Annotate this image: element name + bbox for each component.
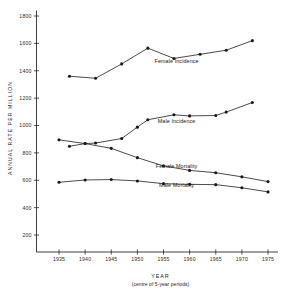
data-point [136,156,139,159]
data-point [266,180,269,183]
data-point [57,181,60,184]
data-point [225,49,228,52]
x-tick-label: 1940 [79,256,91,262]
data-point [266,190,269,193]
y-axis: 20040060080010001200140016001800 [19,11,39,253]
x-tick-label: 1965 [210,256,222,262]
data-point [240,186,243,189]
x-tick-label: 1945 [105,256,117,262]
y-tick-label: 1000 [19,122,31,128]
data-point [136,126,139,129]
x-tick-label: 1960 [184,256,196,262]
series-line-male-incidence [69,103,252,147]
data-point [110,178,113,181]
x-tick-label: 1955 [157,256,169,262]
data-point [214,171,217,174]
data-point [68,145,71,148]
x-tick-label: 1950 [131,256,143,262]
data-point [84,178,87,181]
x-axis-title: YEAR [151,273,169,279]
data-point [251,101,254,104]
line-chart: 20040060080010001200140016001800 1935194… [0,0,284,299]
x-tick-label: 1975 [262,256,274,262]
data-point [146,47,149,50]
data-point [188,169,191,172]
x-tick-label: 1935 [53,256,65,262]
x-tick-label: 1970 [236,256,248,262]
data-point [94,77,97,80]
y-tick-label: 800 [22,150,31,156]
data-point [120,137,123,140]
data-point [68,75,71,78]
y-tick-label: 1800 [19,13,31,19]
data-point [110,147,113,150]
data-point [146,118,149,121]
data-point [214,183,217,186]
series-label-male-mortality: Male Mortality [159,182,194,188]
data-point [136,179,139,182]
series-label-layer: Female IncidenceMale IncidenceFemale Mor… [154,58,198,187]
y-tick-label: 1200 [19,95,31,101]
data-point [94,141,97,144]
chart-container: 20040060080010001200140016001800 1935194… [0,0,284,299]
data-point [120,62,123,65]
data-point [172,113,175,116]
x-axis: 193519401945195019551960196519701975 [37,249,279,262]
series-label-female-incidence: Female Incidence [154,58,198,64]
data-point [199,53,202,56]
y-tick-label: 600 [22,177,31,183]
data-point [84,142,87,145]
y-tick-label: 200 [22,232,31,238]
series-line-female-mortality [59,140,268,182]
y-tick-label: 400 [22,205,31,211]
series-label-male-incidence: Male Incidence [158,118,196,124]
data-point [57,138,60,141]
data-point [225,111,228,114]
x-axis-subtitle: (centre of 5-year periods) [132,282,190,287]
data-point [251,39,254,42]
y-tick-label: 1400 [19,68,31,74]
data-point [240,175,243,178]
y-axis-title: ANNUAL RATE PER MILLION [7,81,13,175]
data-point [214,114,217,117]
y-tick-label: 1600 [19,40,31,46]
series-label-female-mortality: Female Mortality [156,163,198,169]
